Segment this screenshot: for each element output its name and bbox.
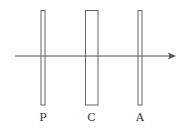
- polarizer-label: P: [39, 111, 47, 124]
- cell-label: C: [87, 111, 95, 124]
- cell-plate: [86, 11, 99, 106]
- light-ray: [15, 53, 176, 60]
- optical-setup-diagram: P C A: [0, 0, 184, 133]
- polarizer-plate: [41, 11, 45, 106]
- analyzer-plate: [138, 11, 142, 106]
- plates-group: [41, 11, 142, 106]
- analyzer-label: A: [135, 111, 145, 124]
- labels-group: P C A: [39, 111, 145, 124]
